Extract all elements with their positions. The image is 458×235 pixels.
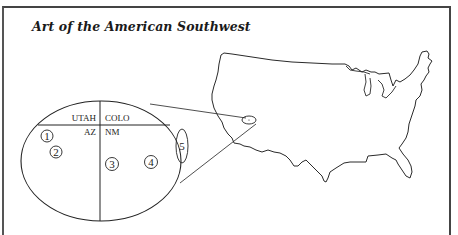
state-label-utah: UTAH [72,113,97,123]
state-label-nm: NM [105,127,120,137]
site-marker-2: 2 [50,146,62,158]
svg-text:2: 2 [53,146,59,158]
state-label-az: AZ [84,127,96,137]
svg-text:5: 5 [179,140,185,152]
southwest-diagram: UTAH COLO AZ NM 1 2 3 4 5 [0,0,458,235]
great-lakes-outline [346,66,396,98]
site-marker-3: 3 [106,158,119,171]
site-marker-4: 4 [145,156,158,169]
site-marker-5: 5 [176,129,188,163]
svg-text:3: 3 [109,158,115,170]
connector-line-top [150,104,246,118]
state-label-colo: COLO [105,113,130,123]
four-corners-dot [248,119,249,120]
svg-text:4: 4 [148,156,154,168]
connector-line-bottom [180,124,256,183]
site-marker-1: 1 [41,130,53,142]
svg-text:1: 1 [44,130,50,142]
